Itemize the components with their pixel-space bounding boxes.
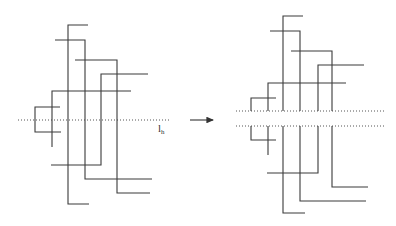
- right-segment-5: [251, 98, 276, 140]
- right-segment-3: [267, 65, 364, 173]
- diagram-canvas: [0, 0, 396, 226]
- left-panel: [18, 25, 170, 204]
- right-panel: [236, 16, 385, 213]
- left-segment-2: [75, 60, 150, 193]
- right-segment-2: [291, 51, 368, 187]
- lh-label-sub: h: [161, 128, 165, 136]
- left-segment-1: [55, 40, 152, 179]
- lh-label: lh: [158, 123, 165, 136]
- left-segment-4: [52, 91, 131, 147]
- right-segment-1: [270, 31, 366, 201]
- right-segment-0: [283, 16, 305, 213]
- right-segment-4: [268, 83, 346, 155]
- left-segment-0: [68, 25, 89, 204]
